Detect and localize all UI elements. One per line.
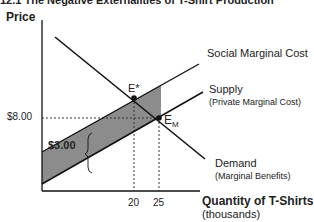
- supply-sublabel: (Private Marginal Cost): [209, 97, 301, 107]
- x-axis-sublabel: (thousands): [202, 208, 260, 220]
- point-e-m-sub: M: [172, 120, 179, 129]
- y-tick-8: $8.00: [7, 111, 32, 122]
- chart-canvas: [0, 0, 314, 222]
- x-tick-20: 20: [128, 197, 139, 208]
- supply-label: Supply: [209, 83, 243, 95]
- social-marginal-cost-label: Social Marginal Cost: [207, 47, 308, 59]
- point-e-m: [156, 115, 162, 121]
- externality-amount-label: $3.00: [48, 139, 76, 151]
- x-axis-label: Quantity of T-Shirts: [202, 194, 313, 208]
- point-e-star: [131, 95, 137, 101]
- demand-sublabel: (Marginal Benefits): [215, 171, 291, 181]
- externality-shaded-region: [42, 85, 161, 184]
- x-tick-25: 25: [153, 197, 164, 208]
- demand-label: Demand: [215, 157, 257, 169]
- point-e-m-main: E: [164, 113, 172, 127]
- point-e-m-label: EM: [164, 113, 179, 129]
- y-axis-label: Price: [6, 10, 35, 24]
- point-e-star-label: E*: [128, 82, 140, 94]
